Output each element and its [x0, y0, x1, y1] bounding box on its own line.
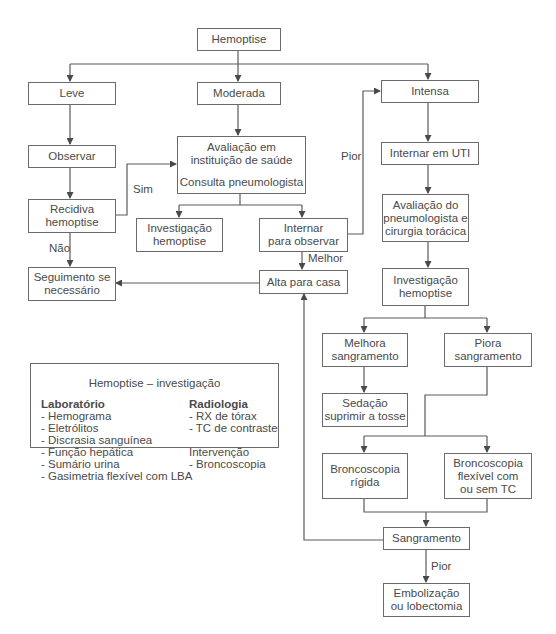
- box-label-line: pneumologista e: [383, 212, 467, 225]
- box-label: Moderada: [213, 87, 265, 100]
- box-recidiva-hemoptise: Recidiva hemoptise: [28, 199, 116, 233]
- box-avaliacao-instituicao: Avaliação em instituição de saúde Consul…: [177, 136, 306, 194]
- box-label: Sangramento: [392, 532, 461, 545]
- box-label-line: sangramento: [331, 350, 398, 363]
- box-label-line: hemoptise: [45, 216, 98, 229]
- legend-lab-item: - Hemograma: [41, 410, 192, 422]
- legend-intervention-item: - Broncoscopia: [189, 458, 278, 470]
- box-leve: Leve: [28, 82, 116, 105]
- box-label: Internar em UTI: [390, 147, 471, 160]
- box-avaliacao-pneumologista: Avaliação do pneumologista e cirurgia to…: [382, 194, 469, 242]
- legend-lab-item: - Discrasia sanguínea: [41, 434, 192, 446]
- box-label: Leve: [60, 87, 85, 100]
- box-label-line: hemoptise: [153, 235, 206, 248]
- box-broncoscopia-rigida: Broncoscopia rígida: [322, 453, 408, 499]
- edge-label-melhor: Melhor: [308, 252, 343, 265]
- box-sangramento: Sangramento: [383, 527, 470, 550]
- box-label-line: Piora: [475, 337, 502, 350]
- box-label-line: Consulta pneumologista: [180, 176, 303, 189]
- box-label-line: necessário: [44, 284, 100, 297]
- box-intensa: Intensa: [381, 80, 479, 103]
- legend-lab-column: Laboratório - Hemograma - Eletrólitos - …: [41, 398, 192, 482]
- box-label-line: instituição de saúde: [191, 154, 293, 167]
- box-alta-para-casa: Alta para casa: [259, 270, 348, 294]
- box-observar: Observar: [28, 145, 116, 168]
- box-investigacao-moderada: Investigação hemoptise: [136, 218, 223, 252]
- box-label-line: Broncoscopia: [453, 457, 523, 470]
- legend-intervention-heading: Intervenção: [189, 446, 278, 458]
- box-label-line: hemoptise: [399, 287, 452, 300]
- box-label-line: Investigação: [393, 274, 458, 287]
- box-label-line: flexível com: [458, 470, 519, 483]
- box-sedacao: Sedação suprimir a tosse: [322, 393, 408, 427]
- legend-lab-item: - Eletrólitos: [41, 422, 192, 434]
- legend-radiology-column: Radiologia - RX de tórax - TC de contras…: [189, 398, 278, 470]
- box-label-line: ou lobectomia: [391, 600, 463, 613]
- legend-radiology-heading: Radiologia: [189, 398, 278, 410]
- box-internar-uti: Internar em UTI: [381, 142, 479, 165]
- edge-label-pior-moderada: Pior: [341, 150, 361, 163]
- legend-lab-item: - Sumário urina: [41, 458, 192, 470]
- legend-lab-item: - Gasimetria flexível com LBA: [41, 470, 192, 482]
- box-seguimento: Seguimento se necessário: [28, 267, 116, 301]
- box-label-line: Embolização: [394, 587, 460, 600]
- box-label-line: suprimir a tosse: [324, 410, 405, 423]
- box-label-line: para observar: [268, 235, 339, 248]
- edge-label-nao: Não: [49, 242, 70, 255]
- legend-title: Hemoptise – investigação: [31, 377, 278, 389]
- box-broncoscopia-flexivel: Broncoscopia flexível com ou sem TC: [444, 453, 532, 499]
- box-label-line: Melhora: [344, 337, 386, 350]
- box-label-line: Avaliação do: [393, 199, 459, 212]
- box-label: Alta para casa: [267, 276, 341, 289]
- legend-radiology-item: - TC de contraste: [189, 422, 278, 434]
- box-label-line: Broncoscopia: [330, 463, 400, 476]
- legend-investigacao: Hemoptise – investigação Laboratório - H…: [30, 363, 279, 448]
- hemoptysis-flowchart: Hemoptise Leve Moderada Intensa Observar…: [0, 0, 556, 634]
- box-label-line: Avaliação em: [207, 141, 276, 154]
- box-investigacao-intensa: Investigação hemoptise: [382, 268, 469, 306]
- box-internar-observar: Internar para observar: [259, 218, 348, 252]
- legend-lab-item: - Função hepática: [41, 446, 192, 458]
- box-piora-sangramento: Piora sangramento: [444, 333, 532, 367]
- box-label: Observar: [48, 150, 95, 163]
- legend-lab-heading: Laboratório: [41, 398, 192, 410]
- edge-label-pior-sangramento: Pior: [431, 560, 451, 573]
- box-label-line: rígida: [351, 476, 380, 489]
- box-label-line: Recidiva: [50, 203, 94, 216]
- box-label-line: cirurgia torácica: [385, 225, 466, 238]
- box-label-line: sangramento: [454, 350, 521, 363]
- box-melhora-sangramento: Melhora sangramento: [322, 333, 408, 367]
- legend-radiology-item: - RX de tórax: [189, 410, 278, 422]
- edge-label-sim: Sim: [133, 183, 153, 196]
- box-label-line: Seguimento se: [34, 271, 111, 284]
- box-label-line: Investigação: [147, 222, 212, 235]
- box-label: Hemoptise: [212, 33, 267, 46]
- box-moderada: Moderada: [197, 82, 281, 105]
- box-label-line: ou sem TC: [460, 483, 516, 496]
- box-hemoptise: Hemoptise: [197, 28, 281, 51]
- box-embolizacao: Embolização ou lobectomia: [383, 583, 470, 617]
- box-label: Intensa: [411, 85, 449, 98]
- box-label-line: Sedação: [342, 397, 387, 410]
- box-label-line: Internar: [284, 222, 324, 235]
